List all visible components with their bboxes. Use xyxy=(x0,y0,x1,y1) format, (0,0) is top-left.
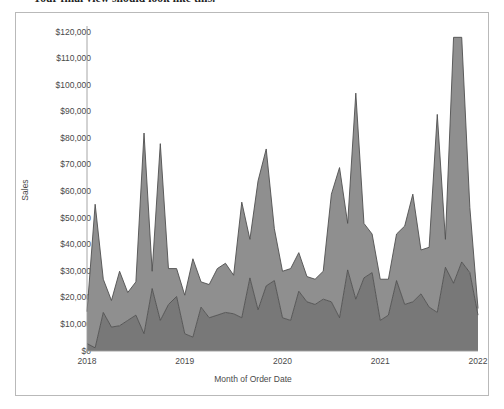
x-tick-label: 2020 xyxy=(261,356,305,366)
x-tick-label: 2022 xyxy=(456,356,500,366)
plot-area: Sales $120,000$110,000$100,000$90,000$80… xyxy=(16,13,490,397)
x-tick-label: 2019 xyxy=(163,356,207,366)
x-tick-label: 2018 xyxy=(65,356,109,366)
caption-strip: Your final view should look like this. xyxy=(0,0,504,9)
x-axis-title: Month of Order Date xyxy=(16,374,490,384)
x-tick-label: 2021 xyxy=(358,356,402,366)
stacked-area-plot xyxy=(16,13,490,397)
chart-panel: Sales $120,000$110,000$100,000$90,000$80… xyxy=(15,12,489,396)
caption-text: Your final view should look like this. xyxy=(33,0,215,4)
